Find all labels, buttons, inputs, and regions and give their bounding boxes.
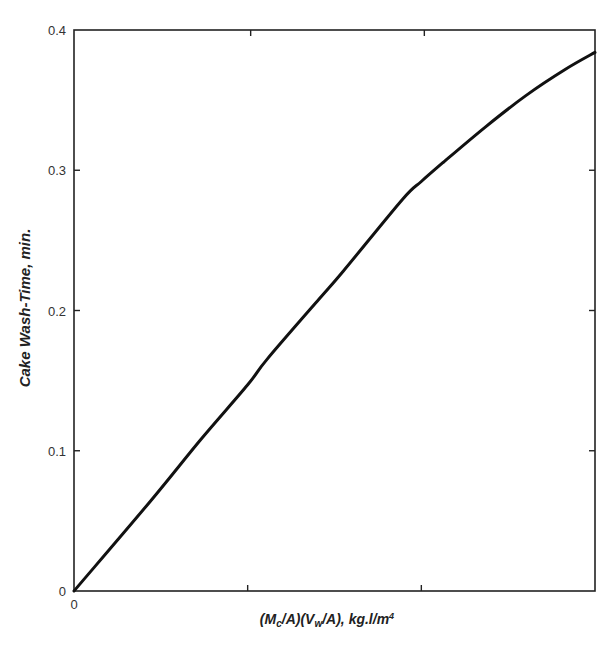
- y-tick-labels: 00.10.20.30.4: [48, 23, 66, 599]
- y-axis-label: Cake Wash-Time, min.: [16, 229, 33, 388]
- axis-ticks: [74, 30, 595, 591]
- x-axis-label: (Mc/A)(Vw/A), kg.l/m4: [260, 611, 394, 629]
- plot-border: [74, 30, 595, 591]
- y-tick-label: 0.2: [48, 304, 66, 319]
- y-tick-label: 0.1: [48, 444, 66, 459]
- data-curve: [74, 52, 595, 591]
- y-tick-label: 0.3: [48, 163, 66, 178]
- y-tick-label: 0: [59, 584, 66, 599]
- chart: 00.10.20.30.4 0 Cake Wash-Time, min. (Mc…: [0, 0, 612, 647]
- y-tick-label: 0.4: [48, 23, 66, 38]
- plot-frame: [74, 30, 595, 591]
- x-tick-label: 0: [70, 597, 77, 612]
- x-tick-labels: 0: [70, 597, 77, 612]
